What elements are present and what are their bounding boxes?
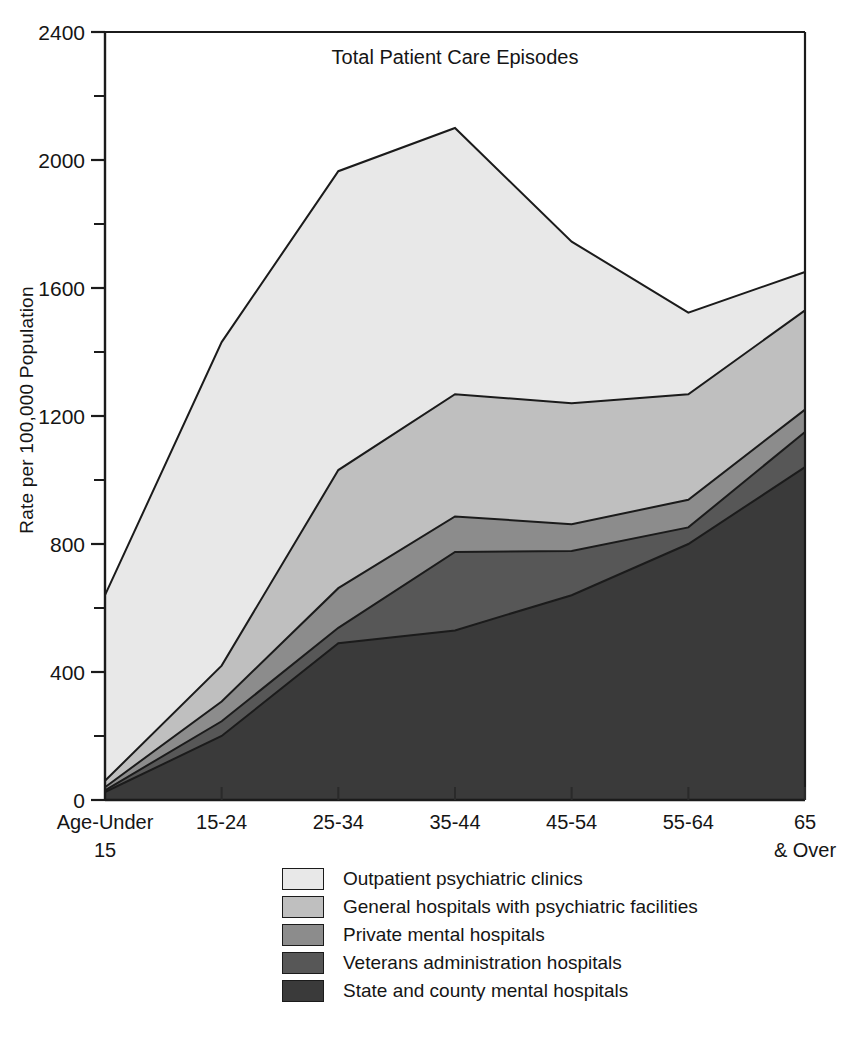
x-axis-category-label: 25-34 (313, 811, 364, 833)
y-axis-tick-label: 1600 (38, 277, 85, 300)
legend-item-state-and-county-mental-hospitals[interactable]: State and county mental hospitals (282, 978, 802, 1004)
legend-label-outpatient-psychiatric-clinics: Outpatient psychiatric clinics (343, 869, 583, 889)
x-axis-category-label: 65 (794, 811, 816, 833)
x-axis-category-label: 45-54 (546, 811, 597, 833)
legend-swatch-outpatient-psychiatric-clinics (282, 868, 324, 890)
y-axis-tick-label: 800 (50, 533, 85, 556)
legend-label-veterans-administration-hospitals: Veterans administration hospitals (343, 953, 622, 973)
legend-swatch-veterans-administration-hospitals (282, 952, 324, 974)
legend-item-veterans-administration-hospitals[interactable]: Veterans administration hospitals (282, 950, 802, 976)
legend-label-state-and-county-mental-hospitals: State and county mental hospitals (343, 981, 628, 1001)
y-axis-tick-label: 400 (50, 661, 85, 684)
legend-swatch-private-mental-hospitals (282, 924, 324, 946)
legend-item-private-mental-hospitals[interactable]: Private mental hospitals (282, 922, 802, 948)
chart-title: Total Patient Care Episodes (332, 46, 579, 68)
x-axis-category-label-line2: & Over (774, 839, 837, 861)
legend-item-general-hospitals-with-psychiatric-facilities[interactable]: General hospitals with psychiatric facil… (282, 894, 802, 920)
legend-swatch-state-and-county-mental-hospitals (282, 980, 324, 1002)
y-axis-tick-label: 0 (73, 789, 85, 812)
legend-item-outpatient-psychiatric-clinics[interactable]: Outpatient psychiatric clinics (282, 866, 802, 892)
legend-label-general-hospitals-with-psychiatric-facilities: General hospitals with psychiatric facil… (343, 897, 698, 917)
y-axis-tick-label: 2400 (38, 21, 85, 44)
x-axis-category-label: Age-Under (57, 811, 154, 833)
x-axis-category-label: 35-44 (429, 811, 480, 833)
y-axis-tick-label: 1200 (38, 405, 85, 428)
chart-legend: Outpatient psychiatric clinics General h… (282, 866, 802, 1006)
chart-container: Rate per 100,000 Population 040080012001… (0, 0, 865, 1041)
x-axis-category-label: 15-24 (196, 811, 247, 833)
x-axis-category-label-line2: 15 (94, 839, 116, 861)
legend-swatch-general-hospitals-with-psychiatric-facilities (282, 896, 324, 918)
legend-label-private-mental-hospitals: Private mental hospitals (343, 925, 545, 945)
y-axis-tick-label: 2000 (38, 149, 85, 172)
x-axis-category-label: 55-64 (663, 811, 714, 833)
